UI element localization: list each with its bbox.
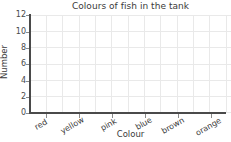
gridline-horizontal (30, 15, 231, 16)
y-axis-line (29, 14, 31, 113)
y-axis-tick (26, 48, 29, 49)
y-axis-tick-label: 10 (4, 28, 26, 36)
x-axis-title: Colour (30, 129, 231, 139)
chart-figure: Colours of fish in the tank (0, 0, 231, 142)
x-axis-tick (46, 114, 47, 118)
y-axis-tick-label: 0 (4, 109, 26, 117)
y-axis-tick (26, 64, 29, 65)
y-axis-tick-label: 12 (4, 11, 26, 19)
gridline-vertical (62, 15, 63, 113)
gridline-horizontal (30, 80, 231, 81)
gridline-horizontal (30, 31, 231, 32)
plot-area (30, 15, 231, 113)
y-axis-tick (26, 15, 29, 16)
y-axis-tick (26, 32, 29, 33)
gridline-vertical (177, 15, 178, 113)
y-axis-tick-label: 2 (4, 93, 26, 101)
y-axis-tick (26, 113, 29, 114)
gridline-vertical (128, 15, 129, 113)
gridline-vertical (193, 15, 194, 113)
gridline-horizontal (30, 47, 231, 48)
chart-title: Colours of fish in the tank (30, 1, 231, 11)
gridline-vertical (111, 15, 112, 113)
gridline-vertical (209, 15, 210, 113)
gridline-vertical (144, 15, 145, 113)
gridline-vertical (46, 15, 47, 113)
gridline-horizontal (30, 96, 231, 97)
y-axis-title: Number (0, 37, 9, 87)
gridline-horizontal (30, 64, 231, 65)
gridline-vertical (226, 15, 227, 113)
gridline-vertical (79, 15, 80, 113)
x-axis-line (29, 112, 226, 114)
y-axis-tick (26, 81, 29, 82)
gridline-vertical (95, 15, 96, 113)
gridline-vertical (160, 15, 161, 113)
x-axis-tick (211, 114, 212, 118)
y-axis-tick (26, 97, 29, 98)
